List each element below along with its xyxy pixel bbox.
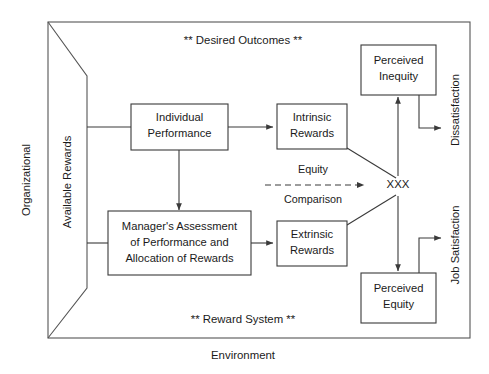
organizational-label: Organizational bbox=[20, 144, 32, 216]
box-extrinsic-rewards-line2: Rewards bbox=[290, 244, 335, 256]
box-perceived-inequity[interactable]: Perceived Inequity bbox=[361, 45, 436, 95]
box-perceived-equity-line1: Perceived bbox=[374, 282, 424, 294]
connector-inequity-to-dissatisfaction bbox=[419, 95, 441, 128]
box-intrinsic-rewards-line1: Intrinsic bbox=[293, 111, 332, 123]
connector-intrinsic-to-junction bbox=[347, 148, 396, 178]
diagram-canvas: Organizational Available Rewards Dissati… bbox=[0, 0, 489, 374]
equity-theory-diagram: Organizational Available Rewards Dissati… bbox=[0, 0, 489, 374]
box-individual-performance-line2: Performance bbox=[147, 127, 211, 139]
box-perceived-inequity-line2: Inequity bbox=[379, 70, 419, 82]
reward-system-banner: ** Reward System ** bbox=[191, 313, 296, 325]
connector-extrinsic-to-junction bbox=[347, 195, 396, 225]
box-individual-performance-line1: Individual bbox=[156, 111, 203, 123]
available-rewards-label: Available Rewards bbox=[61, 135, 73, 228]
box-managers-assessment[interactable]: Manager's Assessment of Performance and … bbox=[108, 211, 251, 275]
box-extrinsic-rewards-line1: Extrinsic bbox=[291, 228, 334, 240]
box-intrinsic-rewards[interactable]: Intrinsic Rewards bbox=[277, 104, 347, 149]
box-perceived-inequity-line1: Perceived bbox=[374, 54, 424, 66]
box-perceived-equity-line2: Equity bbox=[383, 298, 414, 310]
job-satisfaction-label: Job Satisfaction bbox=[449, 206, 461, 285]
equity-label: Equity bbox=[298, 163, 329, 175]
comparison-label: Comparison bbox=[284, 193, 342, 205]
box-individual-performance[interactable]: Individual Performance bbox=[131, 104, 228, 150]
box-managers-assessment-line1: Manager's Assessment bbox=[122, 220, 238, 232]
box-managers-assessment-line2: of Performance and bbox=[130, 236, 228, 248]
box-managers-assessment-line3: Allocation of Rewards bbox=[125, 252, 234, 264]
box-intrinsic-rewards-line2: Rewards bbox=[290, 127, 335, 139]
box-extrinsic-rewards[interactable]: Extrinsic Rewards bbox=[277, 221, 347, 266]
box-perceived-equity[interactable]: Perceived Equity bbox=[361, 273, 436, 323]
connector-equity-to-satisfaction bbox=[419, 238, 441, 274]
desired-outcomes-banner: ** Desired Outcomes ** bbox=[184, 34, 303, 46]
dissatisfaction-label: Dissatisfaction bbox=[449, 74, 461, 146]
junction-xxx: XXX bbox=[387, 178, 410, 190]
environment-caption: Environment bbox=[211, 349, 276, 361]
